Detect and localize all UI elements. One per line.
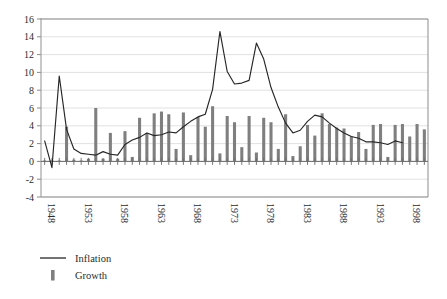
bar xyxy=(328,124,331,161)
inflation-line xyxy=(45,31,403,167)
inflation-polyline xyxy=(45,31,403,167)
bar xyxy=(109,133,112,161)
y-tick-label: 2 xyxy=(29,138,34,149)
bar xyxy=(226,116,229,161)
bar xyxy=(394,125,397,161)
bar xyxy=(423,129,426,161)
bar xyxy=(233,122,236,161)
y-tick-label: 14 xyxy=(24,31,34,42)
legend-label: Growth xyxy=(75,270,108,281)
x-tick-label: 1953 xyxy=(83,203,94,223)
bar xyxy=(182,112,185,161)
bar xyxy=(167,114,170,161)
x-tick-label: 1973 xyxy=(229,203,240,223)
x-tick-label: 1988 xyxy=(338,203,349,223)
bar xyxy=(357,132,360,161)
x-tick-label: 1968 xyxy=(192,203,203,223)
gridlines xyxy=(41,19,428,197)
chart-container: -4-20246810121416 1948195319581963196819… xyxy=(0,0,447,299)
bar xyxy=(408,136,411,161)
legend-swatch-bar xyxy=(51,270,55,281)
bar xyxy=(153,113,156,161)
y-tick-label: -2 xyxy=(26,174,34,185)
y-tick-label: 16 xyxy=(24,14,34,25)
bar xyxy=(321,113,324,161)
x-tick-label: 1963 xyxy=(156,203,167,223)
bar xyxy=(335,128,338,162)
chart-legend: InflationGrowth xyxy=(40,253,112,281)
x-tick-label: 1978 xyxy=(265,203,276,223)
bar xyxy=(138,118,141,162)
bar xyxy=(372,125,375,161)
y-axis-tick-labels: -4-20246810121416 xyxy=(24,14,34,203)
inflation-growth-chart: -4-20246810121416 1948195319581963196819… xyxy=(0,0,447,299)
x-tick-label: 1948 xyxy=(46,203,57,223)
bar xyxy=(160,112,163,162)
x-tick-label: 1998 xyxy=(411,203,422,223)
bar xyxy=(196,117,199,161)
bar xyxy=(145,133,148,161)
y-tick-label: 6 xyxy=(29,103,34,114)
legend-label: Inflation xyxy=(75,253,112,264)
bar xyxy=(313,136,316,162)
bar xyxy=(306,125,309,161)
y-tick-label: 8 xyxy=(29,85,34,96)
y-tick-label: 10 xyxy=(24,67,34,78)
y-axis-ticks xyxy=(37,19,41,197)
x-axis-tick-labels: 1948195319581963196819731978198319881993… xyxy=(46,203,422,223)
x-tick-label: 1958 xyxy=(119,203,130,223)
x-tick-label: 1993 xyxy=(375,203,386,223)
y-tick-label: 0 xyxy=(29,156,34,167)
x-tick-label: 1983 xyxy=(302,203,313,223)
bar xyxy=(248,116,251,161)
bar xyxy=(262,118,265,162)
bar xyxy=(416,124,419,161)
bar xyxy=(204,127,207,162)
y-tick-label: 12 xyxy=(24,49,34,60)
bar xyxy=(269,122,272,161)
plot-frame xyxy=(41,18,428,197)
y-tick-label: 4 xyxy=(29,120,34,131)
bar xyxy=(350,136,353,161)
y-tick-label: -4 xyxy=(26,192,34,203)
bar xyxy=(211,106,214,161)
bar xyxy=(94,108,97,161)
